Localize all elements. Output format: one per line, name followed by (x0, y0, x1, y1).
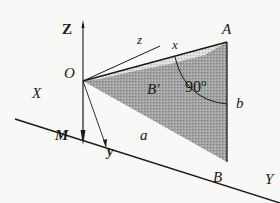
label-X-axis: X (32, 86, 41, 101)
label-side-b: b (236, 96, 244, 111)
label-Z-axis: Z (62, 22, 72, 37)
label-point-A: A (222, 22, 231, 37)
label-side-a: a (140, 128, 148, 143)
axis-Z-arrowhead (82, 20, 85, 28)
diagram-canvas: Z z x A O X B′ 90o b a M y B Y (0, 0, 280, 203)
label-point-B-prime: B′ (147, 82, 159, 97)
label-Y-axis: Y (265, 172, 273, 187)
label-x-axis: x (172, 38, 178, 51)
angle-value: 90 (185, 78, 201, 95)
label-angle-90: 90o (185, 77, 207, 95)
degree-symbol: o (201, 76, 207, 88)
label-y-axis: y (107, 145, 113, 159)
label-point-O: O (64, 66, 75, 81)
label-z-axis: z (137, 33, 142, 46)
axis-M-arrowhead (81, 130, 86, 145)
label-point-B: B (213, 170, 222, 185)
label-M-axis: M (55, 128, 68, 143)
